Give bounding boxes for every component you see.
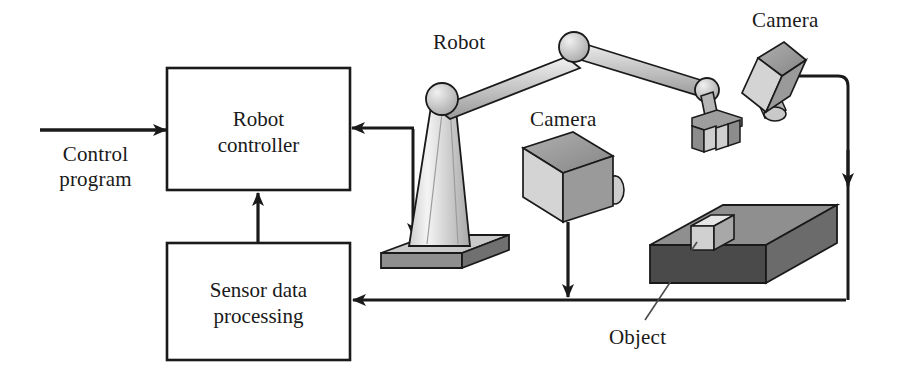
sensor-label-line1: Sensor data: [167, 277, 350, 303]
diagram-canvas: Robot controller Sensor data processing …: [0, 0, 901, 374]
control-program-label: Control program: [33, 142, 158, 192]
robot-elbow-joint: [559, 32, 589, 62]
robot-controller-label-line1: Robot: [167, 106, 350, 132]
robot-controller-label-line2: controller: [167, 132, 350, 158]
robot-label: Robot: [433, 30, 485, 55]
sensor-data-processing-label: Sensor data processing: [167, 277, 350, 329]
camera-center-label: Camera: [530, 107, 597, 132]
object-label: Object: [609, 325, 666, 350]
robot-controller-label: Robot controller: [167, 106, 350, 158]
control-program-line1: Control: [33, 142, 158, 167]
camera-right: [742, 42, 806, 121]
robot-shoulder-joint: [426, 83, 458, 115]
control-program-line2: program: [33, 167, 158, 192]
robot-column: [409, 100, 470, 246]
sensor-label-line2: processing: [167, 303, 350, 329]
camera-center: [523, 132, 624, 222]
camera-right-label: Camera: [752, 8, 819, 33]
connector-camera-right-wire: [790, 76, 848, 300]
robot-gripper: [692, 110, 742, 152]
